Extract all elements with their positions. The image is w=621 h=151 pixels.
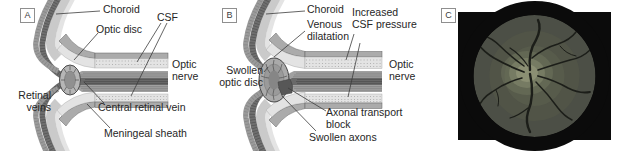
label-swollen-axons-b: Swollen axons [309,132,377,144]
label-choroid-a: Choroid [103,4,140,16]
panel-b: B Choroid Venous dilatation Increased CS… [210,0,440,151]
label-central-retinal-vein-a: Central retinal vein [98,102,186,114]
panel-c: C [440,0,621,151]
swollen-optic-disc [259,58,293,102]
figure: A Choroid CSF Optic disc Optic nerve Ret… [0,0,621,151]
panel-a: A Choroid CSF Optic disc Optic nerve Ret… [0,0,210,151]
fundus-photograph [440,0,621,151]
label-venous-dilatation-b: Venous dilatation [307,19,349,42]
optic-disc-normal [60,65,81,95]
label-optic-nerve-a: Optic nerve [172,59,198,82]
label-increased-csf-pressure-b: Increased CSF pressure [352,7,417,30]
panel-letter-c: C [441,8,456,23]
optic-nerve-bundle [284,71,382,92]
label-choroid-b: Choroid [307,4,344,16]
panel-letter-b: B [222,8,237,23]
label-swollen-optic-disc-b: Swollen optic disc [214,65,263,88]
label-retinal-veins-a: Retinal veins [10,90,51,113]
label-axonal-transport-block-b: Axonal transport block [326,107,402,130]
label-optic-nerve-b: Optic nerve [389,59,415,82]
label-csf-a: CSF [157,12,178,24]
optic-nerve-bundle [71,71,168,92]
label-meningeal-sheath-a: Meningeal sheath [104,128,187,140]
fundus-field [474,15,596,137]
label-optic-disc-a: Optic disc [96,24,142,36]
panel-letter-a: A [20,8,35,23]
